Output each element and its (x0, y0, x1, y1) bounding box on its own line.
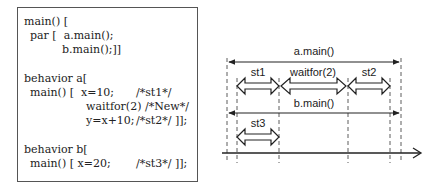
waitfor-arrow-icon (281, 78, 346, 94)
b-main-label: b.main() (294, 97, 334, 109)
st1-arrow-icon (237, 78, 279, 94)
st2-arrow-icon (348, 78, 390, 94)
st2-label: st2 (362, 66, 377, 78)
timing-diagram: a.main() st1 waitfor(2) st2 st3 b.main() (0, 0, 444, 186)
st1-label: st1 (251, 66, 266, 78)
st3-arrow-icon (237, 129, 279, 145)
waitfor-label: waitfor(2) (289, 66, 336, 78)
a-main-label: a.main() (294, 45, 334, 57)
st3-label: st3 (251, 117, 266, 129)
